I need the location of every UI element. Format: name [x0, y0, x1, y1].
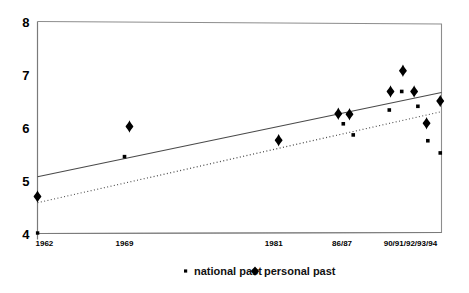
- data-point-national-past: [387, 108, 391, 112]
- y-axis-tick-label: 6: [22, 121, 29, 136]
- x-axis-tick-label: 86/87: [332, 239, 353, 248]
- x-axis-tick-label: 1981: [265, 239, 283, 248]
- y-axis-tick-label: 4: [22, 227, 30, 242]
- data-point-national-past: [416, 105, 420, 109]
- scatter-plot: 45678 19621969198186/8790/91/92/93/94 na…: [0, 0, 469, 293]
- data-point-national-past: [351, 133, 355, 137]
- chart-figure: 45678 19621969198186/8790/91/92/93/94 na…: [0, 0, 469, 293]
- y-axis-tick-label: 7: [22, 68, 29, 83]
- data-point-national-past: [341, 122, 345, 126]
- origin-tick-marker: [36, 231, 39, 234]
- data-point-national-past: [123, 155, 127, 159]
- y-axis-tick-label: 8: [22, 15, 29, 30]
- data-point-national-past: [400, 90, 404, 94]
- chart-background: [0, 0, 469, 293]
- y-axis-tick-label: 5: [22, 174, 29, 189]
- x-axis-tick-label: 1962: [36, 239, 54, 248]
- x-axis-tick-label: 90/91/92/93/94: [384, 239, 438, 248]
- legend-label-personal-past: personal past: [264, 265, 336, 277]
- chart-legend: national pastpersonal past: [184, 265, 336, 277]
- x-axis-tick-label: 1969: [116, 239, 134, 248]
- data-point-national-past: [438, 151, 442, 155]
- data-point-national-past: [426, 139, 430, 143]
- legend-marker-square-icon: [184, 269, 187, 272]
